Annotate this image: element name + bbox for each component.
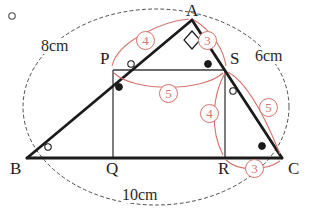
- vertex-label-c: C: [288, 160, 299, 177]
- segment-as-value: 3: [198, 31, 217, 50]
- segment-sc-value: 5: [259, 98, 278, 117]
- vertex-label-r: R: [218, 160, 229, 177]
- vertex-label-b: B: [10, 160, 21, 177]
- segment-rc-value: 3: [245, 159, 264, 178]
- side-ab-length: 8cm: [40, 38, 70, 54]
- vertex-label-a: A: [186, 2, 198, 19]
- vertex-label-s: S: [230, 50, 239, 67]
- diagram-canvas: A B C P S Q R 8cm 6cm 10cm 4 3 5 4 5 3: [0, 0, 317, 220]
- segment-ap-value: 4: [136, 31, 155, 50]
- vertex-label-q: Q: [106, 160, 118, 177]
- segment-ps-value: 5: [159, 84, 178, 103]
- segment-sr-value: 4: [200, 104, 219, 123]
- side-bc-length: 10cm: [121, 187, 159, 203]
- vertex-label-p: P: [100, 50, 109, 67]
- side-ac-length: 6cm: [254, 48, 284, 64]
